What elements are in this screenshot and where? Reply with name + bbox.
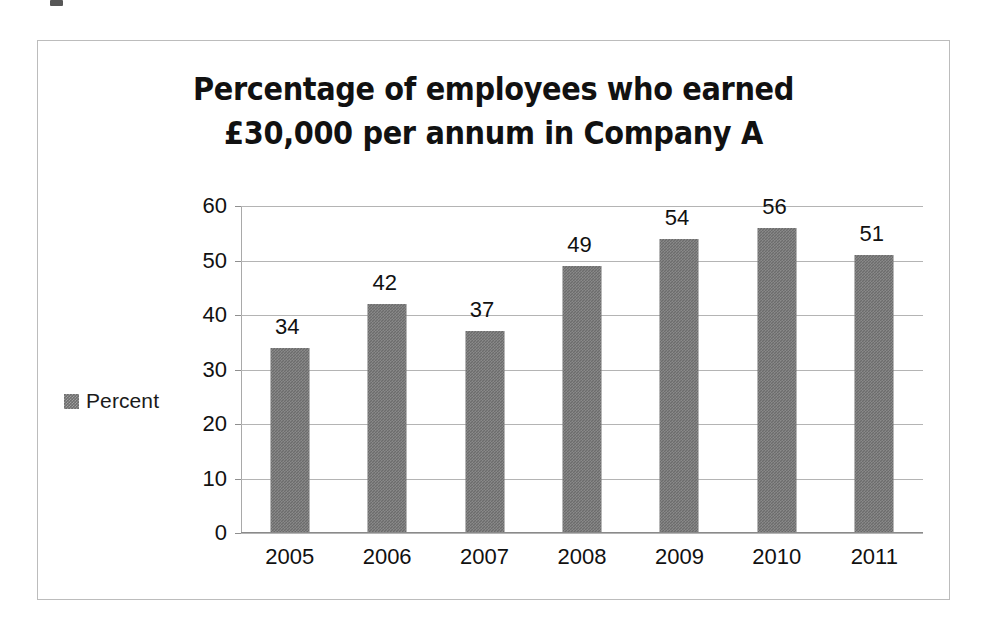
bar-value-label: 49 — [567, 232, 591, 258]
y-axis-tick-label: 0 — [215, 520, 227, 546]
legend-label-percent: Percent — [86, 389, 159, 413]
chart-legend: Percent — [64, 389, 159, 413]
bar-slot: 34 — [241, 206, 338, 533]
x-axis-label: 2011 — [851, 544, 898, 570]
bar-slot: 42 — [338, 206, 435, 533]
x-axis-label: 2006 — [363, 544, 412, 570]
bar-slot: 51 — [826, 206, 923, 533]
legend-swatch-percent — [64, 394, 79, 409]
y-axis-tick — [235, 533, 241, 534]
bars-group: 34423749545651 — [241, 206, 926, 533]
x-axis-line — [241, 532, 923, 533]
x-axis-labels-group: 2005200620072008200920102011 — [241, 544, 926, 584]
bar[interactable] — [660, 239, 699, 533]
bar[interactable] — [562, 266, 601, 533]
bar[interactable] — [465, 331, 504, 533]
bar-value-label: 42 — [372, 270, 396, 296]
bar-value-label: 54 — [665, 205, 689, 231]
y-axis-tick-label: 30 — [203, 357, 227, 383]
x-axis-label: 2007 — [460, 544, 509, 570]
bar[interactable] — [757, 228, 796, 533]
y-axis-tick-label: 60 — [203, 193, 227, 219]
x-axis-label: 2009 — [655, 544, 704, 570]
y-axis-tick-label: 20 — [203, 411, 227, 437]
chart-container: Percentage of employees who earned £30,0… — [37, 40, 950, 600]
plot-area: 0102030405060 34423749545651 — [241, 206, 926, 533]
chart-title: Percentage of employees who earned £30,0… — [84, 67, 904, 155]
chart-title-line-1: Percentage of employees who earned — [84, 67, 904, 111]
bar-value-label: 51 — [860, 221, 884, 247]
x-axis-label: 2008 — [558, 544, 607, 570]
bar-value-label: 34 — [275, 314, 299, 340]
y-axis-tick-label: 40 — [203, 302, 227, 328]
bar[interactable] — [368, 304, 407, 533]
bar[interactable] — [855, 255, 894, 533]
chart-title-line-2: £30,000 per annum in Company A — [84, 111, 904, 155]
bar-slot: 54 — [631, 206, 728, 533]
x-axis-label: 2005 — [265, 544, 314, 570]
bar-slot: 37 — [436, 206, 533, 533]
bar-slot: 56 — [728, 206, 825, 533]
bar-value-label: 56 — [762, 194, 786, 220]
gridline — [241, 533, 923, 534]
bar[interactable] — [270, 348, 309, 533]
bar-value-label: 37 — [470, 297, 494, 323]
y-axis-tick-label: 50 — [203, 248, 227, 274]
scan-artifact — [50, 0, 63, 6]
y-axis-tick-label: 10 — [203, 466, 227, 492]
x-axis-label: 2010 — [752, 544, 801, 570]
bar-slot: 49 — [533, 206, 630, 533]
